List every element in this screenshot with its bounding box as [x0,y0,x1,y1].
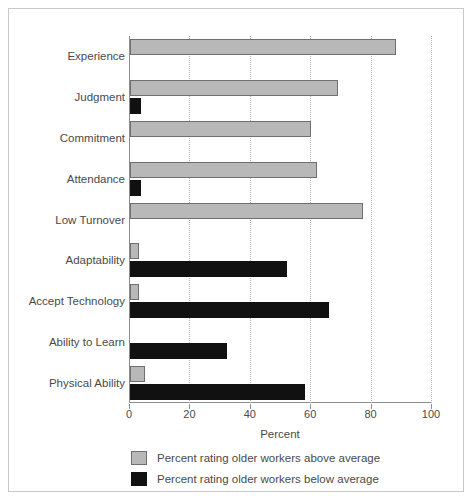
gridline-80 [371,36,372,403]
bar-above-average [130,366,145,382]
gridline-100 [431,36,432,403]
category-label-judgment: Judgment [0,91,125,103]
category-label-commitment: Commitment [0,132,125,144]
figure-border: ExperienceJudgmentCommitmentAttendanceLo… [8,8,464,492]
bar-above-average [130,121,311,137]
chart-figure: ExperienceJudgmentCommitmentAttendanceLo… [0,0,474,503]
category-label-ability-to-learn: Ability to Learn [0,336,125,348]
category-label-experience: Experience [0,50,125,62]
legend-swatch-gray [131,451,147,465]
x-tick-label-80: 80 [364,408,376,420]
category-label-adaptability: Adaptability [0,254,125,266]
x-tick-label-0: 0 [126,408,132,420]
legend-swatch-black [131,472,147,486]
bar-above-average [130,284,139,300]
bar-above-average [130,39,396,55]
legend-item: Percent rating older workers below avera… [131,468,451,489]
legend-label: Percent rating older workers above avera… [157,452,380,464]
x-tick-label-20: 20 [183,408,195,420]
bar-above-average [130,243,139,259]
x-tick-label-100: 100 [422,408,440,420]
x-tick-label-40: 40 [244,408,256,420]
category-label-attendance: Attendance [0,173,125,185]
category-label-accept-technology: Accept Technology [0,295,125,307]
x-tick-label-60: 60 [304,408,316,420]
bar-below-average [130,261,287,277]
plot-area: ExperienceJudgmentCommitmentAttendanceLo… [129,36,431,403]
chart-legend: Percent rating older workers above avera… [131,447,451,489]
bar-below-average [130,384,305,400]
bar-below-average [130,180,141,196]
bar-above-average [130,203,363,219]
bar-below-average [130,343,227,359]
bar-below-average [130,98,141,114]
bar-above-average [130,80,338,96]
legend-item: Percent rating older workers above avera… [131,447,451,468]
category-label-low-turnover: Low Turnover [0,214,125,226]
x-axis-title: Percent [129,428,431,440]
bar-below-average [130,302,329,318]
bar-above-average [130,162,317,178]
category-label-physical-ability: Physical Ability [0,377,125,389]
legend-label: Percent rating older workers below avera… [157,473,379,485]
